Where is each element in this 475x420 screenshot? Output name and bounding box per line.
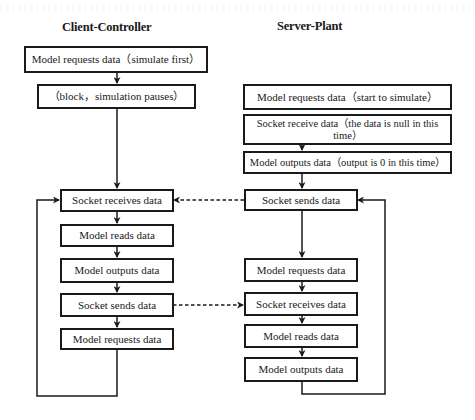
- client-node-block-simulation-pauses: （block，simulation pauses）: [37, 84, 196, 109]
- client-node-model-reads-data: Model reads data: [60, 224, 174, 247]
- client-node-model-outputs-data: Model outputs data: [60, 258, 174, 283]
- server-node-model-reads-data: Model reads data: [244, 324, 358, 348]
- server-node-model-requests-data: Model requests data: [244, 258, 358, 282]
- client-node-socket-sends-data: Socket sends data: [60, 293, 174, 317]
- client-node-model-requests-data: Model requests data: [60, 328, 174, 350]
- server-node-model-outputs-data: Model outputs data: [244, 357, 358, 382]
- client-node-socket-receives-data: Socket receives data: [60, 189, 174, 212]
- server-node-model-requests-start-simulate: Model requests data（start to simulate）: [243, 84, 452, 110]
- server-node-socket-sends-data: Socket sends data: [244, 189, 358, 211]
- client-node-model-requests-simulate-first: Model requests data（simulate first）: [24, 46, 208, 73]
- server-node-socket-receives-data: Socket receives data: [244, 292, 358, 316]
- server-node-model-outputs-zero: Model outputs data（output is 0 in this t…: [243, 151, 452, 174]
- server-node-socket-receive-null: Socket receive data（the data is null in …: [243, 114, 452, 145]
